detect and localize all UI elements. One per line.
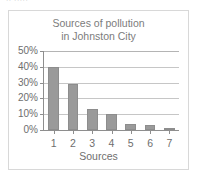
x-axis-label-7: 7 [166, 137, 172, 149]
y-axis-label: 30% [18, 78, 38, 88]
y-axis-label: 40% [18, 62, 38, 72]
x-axis-label-1: 1 [51, 137, 57, 149]
gridline [44, 67, 179, 68]
x-axis-label-2: 2 [70, 137, 76, 149]
x-axis-label-5: 5 [128, 137, 134, 149]
bar-2 [68, 84, 79, 130]
y-axis-label: 10% [18, 109, 38, 119]
gridline [44, 98, 179, 99]
y-axis-tick [40, 114, 44, 115]
chart-title-line-1: Sources of pollution [9, 17, 188, 30]
x-axis-tick [131, 130, 132, 134]
y-axis-tick [40, 67, 44, 68]
x-axis-tick [169, 130, 170, 134]
bar-1 [48, 67, 59, 130]
gridline [44, 83, 179, 84]
clipped-header-text: ·· ····· [6, 0, 76, 5]
chart-figure: Sources of pollution in Johnston City 0%… [8, 10, 189, 170]
bar-3 [87, 109, 98, 130]
y-axis-tick [40, 83, 44, 84]
y-axis-label: 0% [24, 125, 38, 135]
x-axis-label-4: 4 [109, 137, 115, 149]
x-axis-label-3: 3 [89, 137, 95, 149]
plot-area: 0%10%20%30%40%50%1234567 [43, 51, 179, 131]
x-axis-tick [112, 130, 113, 134]
x-axis-tick [92, 130, 93, 134]
x-axis-tick [150, 130, 151, 134]
y-axis-tick [40, 130, 44, 131]
x-axis-title: Sources [9, 150, 188, 162]
y-axis-tick [40, 51, 44, 52]
y-axis-tick [40, 98, 44, 99]
bar-4 [106, 114, 117, 130]
chart-title: Sources of pollution in Johnston City [9, 17, 188, 43]
x-axis-tick [73, 130, 74, 134]
x-axis-tick [54, 130, 55, 134]
y-axis-label: 50% [18, 46, 38, 56]
x-axis-label-6: 6 [147, 137, 153, 149]
y-axis-label: 20% [18, 93, 38, 103]
chart-title-line-2: in Johnston City [9, 30, 188, 43]
